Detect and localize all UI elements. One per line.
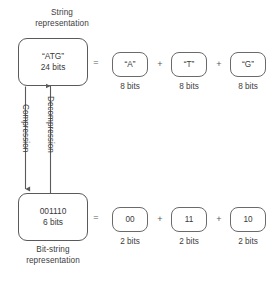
bitstring-row-plus-sign-1: + (155, 214, 165, 224)
bitstring-representation-box: 001110 6 bits (18, 193, 88, 241)
bitstring-unit-00-size: 2 bits (112, 237, 148, 246)
bitstring-unit-11: 11 2 bits (171, 207, 207, 246)
bitstring-row-plus-sign-2: + (214, 214, 224, 224)
bitstring-row-equals-sign: = (91, 212, 101, 222)
bitstring-unit-11-value: 11 (171, 207, 207, 232)
bitstring-representation-caption: Bit-string representation (14, 245, 92, 266)
compression-arrow-label: Compression (21, 104, 30, 152)
bitstring-unit-00-value: 00 (112, 207, 148, 232)
bitstring-unit-10-value: 10 (230, 207, 266, 232)
bitstring-box-value: 001110 (40, 206, 67, 217)
bitstring-unit-11-size: 2 bits (171, 237, 207, 246)
compression-diagram: String representation “ATG” 24 bits = “A… (0, 0, 273, 283)
bitstring-box-size: 6 bits (43, 217, 63, 228)
decompression-arrow-label: Decompression (46, 96, 55, 153)
bitstring-unit-00: 00 2 bits (112, 207, 148, 246)
bitstring-unit-10-size: 2 bits (230, 237, 266, 246)
bitstring-unit-10: 10 2 bits (230, 207, 266, 246)
